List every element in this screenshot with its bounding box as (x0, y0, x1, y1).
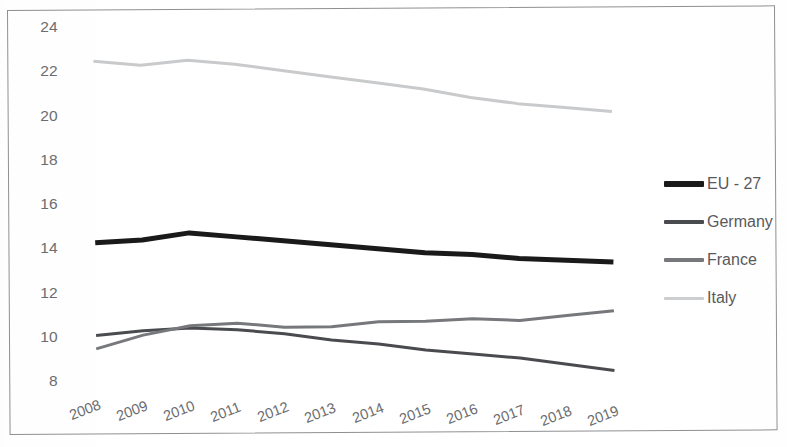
legend-item-label: France (707, 251, 757, 269)
legend-swatch-line-icon (664, 181, 704, 187)
y-axis-tick-label: 16 (24, 195, 58, 213)
y-axis-tick-label: 8 (24, 372, 58, 390)
y-axis-tick-label: 20 (24, 107, 58, 125)
chart-legend: EU - 27GermanyFranceItaly (664, 165, 782, 317)
legend-item: France (664, 241, 782, 279)
y-axis-tick-label: 10 (24, 328, 58, 346)
series-line-italy (93, 56, 612, 116)
legend-item-label: Germany (707, 213, 773, 231)
legend-item-label: EU - 27 (707, 175, 761, 193)
y-axis-tick-label: 14 (24, 239, 58, 257)
y-axis-tick-label: 12 (24, 284, 58, 302)
legend-item: Italy (664, 279, 782, 317)
series-line-eu-27 (95, 229, 613, 267)
legend-swatch-line-icon (664, 258, 704, 262)
y-axis-tick-label: 24 (24, 18, 58, 36)
legend-item-label: Italy (707, 289, 736, 307)
series-line-germany (96, 324, 614, 375)
legend-swatch-line-icon (664, 297, 704, 300)
legend-swatch-line-icon (664, 220, 704, 224)
chart-page: 24222018161412108 2008200920102011201220… (0, 0, 787, 447)
y-axis-tick-label: 22 (24, 62, 58, 80)
series-layer (93, 56, 614, 375)
legend-item: EU - 27 (664, 165, 782, 203)
y-axis-tick-label: 18 (24, 151, 58, 169)
legend-item: Germany (664, 203, 782, 241)
